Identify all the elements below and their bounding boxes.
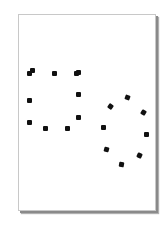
right-circle-shape-dot <box>103 146 109 152</box>
left-rectangle-shape-dot <box>52 71 57 76</box>
left-rectangle-shape-dot <box>65 126 70 131</box>
left-rectangle-shape-dot <box>76 92 81 97</box>
right-circle-shape-dot <box>124 94 130 100</box>
right-circle-shape-dot <box>101 125 106 130</box>
left-rectangle-shape-dot <box>76 115 81 120</box>
paper-card <box>18 14 156 211</box>
figure-canvas <box>0 0 167 229</box>
left-rectangle-shape-dot <box>76 70 81 75</box>
right-circle-shape-dot <box>144 132 149 137</box>
right-circle-shape-dot <box>136 152 143 159</box>
left-rectangle-shape-dot <box>30 68 35 73</box>
left-rectangle-shape-dot <box>27 120 32 125</box>
right-circle-shape-dot <box>118 161 124 167</box>
left-rectangle-shape-dot <box>27 98 32 103</box>
left-rectangle-shape-dot <box>43 126 48 131</box>
